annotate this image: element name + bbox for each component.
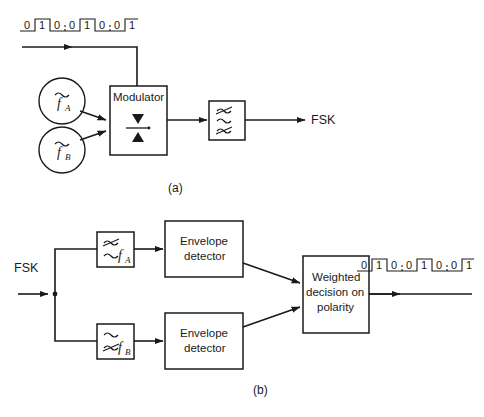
envelope-detector-a: Envelope detector bbox=[165, 221, 243, 277]
input-bit-1: 1 bbox=[39, 19, 45, 31]
fsk-input-label: FSK bbox=[14, 261, 39, 275]
fsk-block-diagram: 0 1 0 0 1 0 0 1 f A f B Modulator bbox=[0, 0, 484, 417]
output-bit-3: 0 bbox=[406, 259, 412, 271]
decision-line3: polarity bbox=[317, 301, 354, 313]
data-input-wire bbox=[22, 47, 137, 86]
input-bit-4: 1 bbox=[84, 19, 90, 31]
decision-line2: decision on bbox=[306, 286, 364, 298]
caption-a: (a) bbox=[168, 181, 183, 195]
input-bit-0: 0 bbox=[24, 19, 30, 31]
modulator-label: Modulator bbox=[113, 91, 164, 103]
output-bit-4: 1 bbox=[421, 259, 427, 271]
caption-b: (b) bbox=[253, 383, 268, 397]
output-bit-1: 1 bbox=[376, 259, 382, 271]
envelope-detector-a-line2: detector bbox=[184, 250, 226, 262]
modulator-block: Modulator bbox=[110, 86, 167, 155]
input-bit-6: 0 bbox=[114, 19, 120, 31]
weighted-decision-block: Weighted decision on polarity bbox=[303, 256, 369, 333]
bandpass-filter-a bbox=[209, 101, 245, 140]
detector-a-to-decision-wire bbox=[243, 263, 300, 283]
input-bit-5: 0 bbox=[99, 19, 105, 31]
envelope-detector-a-line1: Envelope bbox=[180, 235, 228, 247]
decision-line1: Weighted bbox=[312, 271, 360, 283]
bandpass-filter-b-lower: f B bbox=[97, 324, 134, 359]
input-splitter-bus bbox=[53, 249, 97, 341]
input-binary-waveform bbox=[20, 19, 138, 31]
filter-a-subscript: A bbox=[124, 255, 131, 265]
output-bit-6: 0 bbox=[451, 259, 457, 271]
envelope-detector-b-line1: Envelope bbox=[180, 327, 228, 339]
oscillator-b: f B bbox=[39, 127, 106, 173]
detector-b-to-decision-wire bbox=[243, 307, 300, 327]
bandpass-filter-b-upper: f A bbox=[97, 232, 134, 267]
output-bit-0: 0 bbox=[361, 259, 367, 271]
output-bit-5: 0 bbox=[436, 259, 442, 271]
oscillator-a-subscript: A bbox=[64, 103, 71, 113]
input-bit-3: 0 bbox=[69, 19, 75, 31]
input-bit-2: 0 bbox=[54, 19, 60, 31]
envelope-detector-b-line2: detector bbox=[184, 342, 226, 354]
output-bit-2: 0 bbox=[391, 259, 397, 271]
envelope-detector-b: Envelope detector bbox=[165, 313, 243, 369]
oscillator-b-subscript: B bbox=[65, 152, 71, 162]
filter-b-subscript: B bbox=[125, 347, 131, 357]
output-bit-7: 1 bbox=[466, 259, 472, 271]
input-bit-7: 1 bbox=[129, 19, 135, 31]
oscillator-a: f A bbox=[39, 78, 106, 124]
fsk-output-label: FSK bbox=[311, 113, 336, 127]
